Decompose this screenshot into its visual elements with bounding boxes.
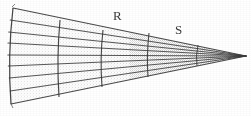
tick-bottom-left	[11, 104, 13, 108]
cone-diagram	[0, 0, 251, 116]
label-s: S	[175, 23, 182, 36]
tick-top-left	[12, 4, 15, 7]
figure-canvas: R S	[0, 0, 251, 116]
label-r: R	[113, 9, 122, 22]
